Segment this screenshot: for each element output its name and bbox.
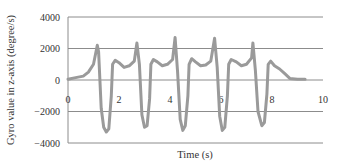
gyro-z-series-line xyxy=(68,38,305,133)
y-tick-label: 4000 xyxy=(40,12,60,23)
x-tick-label: 10 xyxy=(318,94,328,105)
x-tick-labels: 0246810 xyxy=(66,94,329,105)
x-tick-label: 8 xyxy=(270,94,275,105)
x-axis-title: Time (s) xyxy=(177,149,213,161)
x-tick-label: 2 xyxy=(117,94,122,105)
gyro-line-chart: 400020000−2000−4000 0246810 Time (s) Gyr… xyxy=(0,0,341,166)
y-tick-label: −4000 xyxy=(34,138,60,149)
gridlines xyxy=(68,17,323,143)
y-tick-label: 0 xyxy=(55,75,60,86)
y-axis-title: Gyro value in z-axis (degree/s) xyxy=(5,14,17,145)
y-tick-label: 2000 xyxy=(40,43,60,54)
x-tick-label: 4 xyxy=(168,94,173,105)
y-tick-labels: 400020000−2000−4000 xyxy=(34,12,60,149)
x-tick-label: 0 xyxy=(66,94,71,105)
y-tick-label: −2000 xyxy=(34,106,60,117)
